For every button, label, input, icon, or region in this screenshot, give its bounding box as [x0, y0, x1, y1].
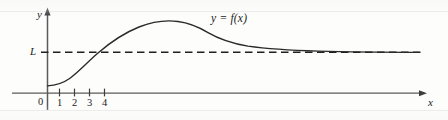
x-axis-arrowhead — [419, 90, 427, 96]
asymptote-label: L — [30, 46, 36, 57]
x-tick-label-4: 4 — [100, 98, 109, 109]
function-curve — [48, 21, 420, 86]
x-tick-label-2: 2 — [70, 98, 79, 109]
curve-equation-label: y = f(x) — [211, 13, 247, 25]
origin-label: 0 — [36, 97, 45, 108]
x-tick-label-1: 1 — [55, 98, 64, 109]
y-axis-label: y — [37, 9, 42, 20]
x-axis-ticks — [60, 89, 105, 97]
limit-graph-figure: y x 0 L 1 2 3 4 y = f(x) — [0, 0, 448, 120]
x-tick-label-3: 3 — [85, 98, 94, 109]
x-axis-label: x — [428, 97, 433, 108]
y-axis-arrowhead — [44, 8, 50, 16]
